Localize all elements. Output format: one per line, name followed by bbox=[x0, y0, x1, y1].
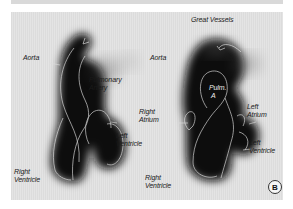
label-pulm-a-2: A bbox=[211, 92, 216, 100]
label-left-atrium-2: Atrium bbox=[247, 111, 267, 119]
label-pulmonary-artery-2: Artery bbox=[89, 84, 107, 92]
panel-label-badge: B bbox=[268, 180, 282, 194]
label-aorta-left: Aorta bbox=[23, 54, 39, 62]
label-right-atrium-2: Atrium bbox=[139, 116, 159, 124]
label-right-ventricle-left-2: Ventricle bbox=[14, 176, 40, 184]
label-left-atrium-1: Left bbox=[247, 103, 258, 111]
label-left-ventricle-left-2: Ventricle bbox=[116, 140, 142, 148]
label-left-ventricle-right-1: Left bbox=[249, 139, 260, 147]
label-right-atrium-1: Right bbox=[139, 108, 155, 116]
figure-panel: Aorta Pulmonary Artery Left Ventricle Ri… bbox=[11, 12, 283, 200]
label-aorta-right: Aorta bbox=[150, 54, 166, 62]
label-great-vessels: Great Vessels bbox=[191, 16, 233, 24]
heart-illustration bbox=[11, 12, 283, 200]
label-right-ventricle-right-2: Ventricle bbox=[145, 182, 171, 190]
label-right-ventricle-left-1: Right bbox=[14, 168, 30, 176]
label-left-ventricle-left-1: Left bbox=[116, 132, 127, 140]
label-pulm-a-1: Pulm. bbox=[209, 84, 226, 92]
label-pulmonary-artery-1: Pulmonary bbox=[89, 76, 122, 84]
label-left-ventricle-right-2: Ventricle bbox=[249, 147, 275, 155]
label-right-ventricle-right-1: Right bbox=[145, 174, 161, 182]
top-strip bbox=[11, 0, 283, 4]
